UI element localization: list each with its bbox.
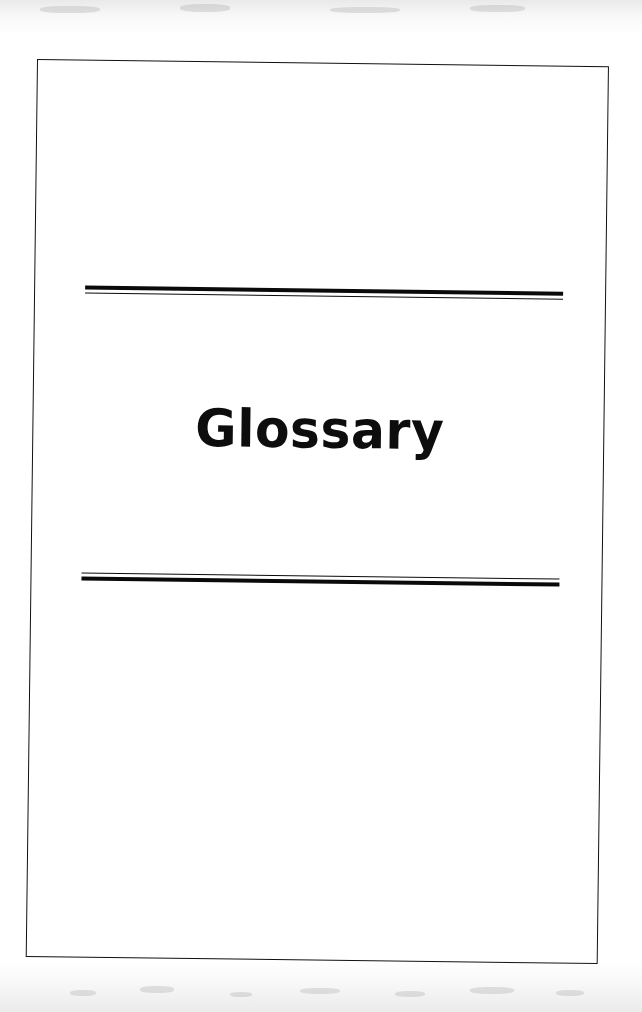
top-double-rule	[85, 286, 563, 300]
scan-speck	[300, 988, 340, 994]
scan-speck	[180, 4, 230, 12]
scan-speck	[40, 6, 100, 13]
page-border-frame: Glossary	[26, 59, 609, 964]
scan-speck	[470, 5, 525, 12]
title-block: Glossary	[33, 400, 606, 459]
scan-speck	[395, 991, 425, 997]
scan-noise-top	[0, 0, 642, 34]
bottom-double-rule	[81, 573, 559, 587]
scan-speck	[70, 990, 96, 996]
scan-speck	[556, 990, 584, 996]
page-title: Glossary	[195, 402, 445, 457]
scan-speck	[330, 7, 400, 13]
scan-speck	[470, 987, 514, 994]
scan-speck	[230, 992, 252, 997]
scanned-page-image: Glossary	[0, 0, 642, 1012]
scan-noise-bottom	[0, 960, 642, 1012]
scan-speck	[140, 986, 174, 993]
page-content-area: Glossary	[27, 60, 610, 965]
